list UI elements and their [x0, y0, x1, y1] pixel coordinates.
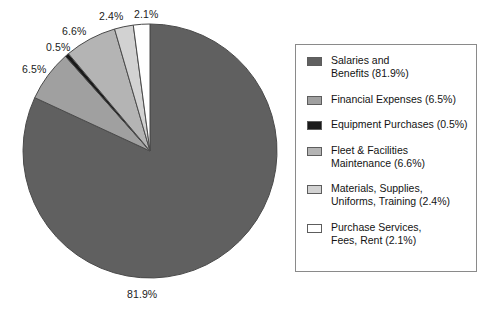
legend-item[interactable]: Purchase Services, Fees, Rent (2.1%)	[307, 221, 469, 247]
legend-item-label: Materials, Supplies, Uniforms, Training …	[331, 182, 450, 208]
pie-slice-percent-label: 2.1%	[134, 8, 158, 20]
legend-item-label: Fleet & Facilities Maintenance (6.6%)	[331, 144, 425, 170]
legend-item-label: Salaries and Benefits (81.9%)	[331, 54, 409, 80]
legend-color-swatch	[307, 57, 322, 66]
legend-color-swatch	[307, 121, 322, 130]
chart-canvas: 81.9%6.5%0.5%6.6%2.4%2.1% Salaries and B…	[0, 0, 495, 315]
pie-slice-percent-label: 6.5%	[22, 63, 46, 75]
legend-item[interactable]: Materials, Supplies, Uniforms, Training …	[307, 182, 469, 208]
legend-item[interactable]: Fleet & Facilities Maintenance (6.6%)	[307, 144, 469, 170]
legend-item[interactable]: Salaries and Benefits (81.9%)	[307, 54, 469, 80]
legend-item[interactable]: Financial Expenses (6.5%)	[307, 93, 469, 106]
legend-color-swatch	[307, 96, 322, 105]
legend-item-label: Financial Expenses (6.5%)	[331, 93, 456, 106]
pie-slice-percent-label: 81.9%	[127, 288, 157, 300]
legend-color-swatch	[307, 185, 322, 194]
legend-item-label: Purchase Services, Fees, Rent (2.1%)	[331, 221, 421, 247]
legend-color-swatch	[307, 224, 322, 233]
chart-legend: Salaries and Benefits (81.9%)Financial E…	[295, 44, 477, 272]
pie-slice-percent-label: 0.5%	[46, 41, 70, 53]
legend-color-swatch	[307, 147, 322, 156]
pie-slice-percent-label: 6.6%	[62, 25, 86, 37]
legend-item-label: Equipment Purchases (0.5%)	[331, 118, 468, 131]
legend-item[interactable]: Equipment Purchases (0.5%)	[307, 118, 469, 131]
pie-slice-percent-label: 2.4%	[99, 10, 123, 22]
